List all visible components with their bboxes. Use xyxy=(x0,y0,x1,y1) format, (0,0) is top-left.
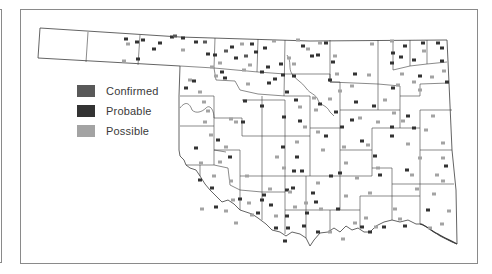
probable-case-marker xyxy=(286,227,290,230)
legend-label-confirmed: Confirmed xyxy=(106,85,159,97)
possible-case-marker xyxy=(272,40,276,43)
possible-case-marker xyxy=(287,57,291,60)
probable-case-marker xyxy=(269,204,273,207)
possible-case-marker xyxy=(424,129,428,132)
possible-case-marker xyxy=(312,97,316,100)
possible-case-marker xyxy=(398,218,402,221)
possible-case-marker xyxy=(370,43,374,46)
probable-case-marker xyxy=(316,231,320,234)
possible-case-marker xyxy=(376,121,380,124)
possible-case-marker xyxy=(316,182,320,185)
probable-case-marker xyxy=(314,201,318,204)
possible-case-marker xyxy=(295,141,299,144)
possible-case-marker xyxy=(218,161,222,164)
possible-case-marker xyxy=(275,156,279,159)
probable-case-marker xyxy=(243,100,247,103)
probable-case-marker xyxy=(281,146,285,149)
probable-case-marker xyxy=(194,41,198,44)
possible-case-marker xyxy=(335,73,339,76)
probable-case-marker xyxy=(318,103,322,106)
possible-case-marker xyxy=(396,84,400,87)
probable-case-marker xyxy=(234,57,238,60)
probable-case-marker xyxy=(213,54,217,57)
possible-case-marker xyxy=(206,110,210,113)
possible-case-marker xyxy=(318,42,322,45)
possible-case-marker xyxy=(364,217,368,220)
probable-case-marker xyxy=(340,126,344,129)
probable-case-marker xyxy=(292,75,296,78)
possible-case-marker xyxy=(358,117,362,120)
possible-case-marker xyxy=(319,208,323,211)
probable-case-marker xyxy=(295,156,299,159)
probable-case-marker xyxy=(391,52,395,55)
possible-case-marker xyxy=(316,131,320,134)
possible-case-marker xyxy=(292,63,296,66)
probable-case-marker xyxy=(216,139,220,142)
possible-case-marker xyxy=(441,157,445,160)
probable-case-marker xyxy=(135,41,139,44)
possible-case-marker xyxy=(268,188,272,191)
probable-case-marker xyxy=(382,226,386,229)
probable-case-marker xyxy=(283,240,287,243)
possible-case-marker xyxy=(410,174,414,177)
possible-case-marker xyxy=(400,73,404,76)
possible-case-marker xyxy=(274,215,278,218)
probable-case-marker xyxy=(274,227,278,230)
possible-case-marker xyxy=(181,49,185,52)
possible-case-marker xyxy=(422,50,426,53)
probable-case-marker xyxy=(260,71,264,74)
possible-case-marker xyxy=(288,191,292,194)
probable-case-marker xyxy=(445,81,449,84)
probable-case-marker xyxy=(390,135,394,138)
possible-case-marker xyxy=(202,101,206,104)
probable-case-marker xyxy=(301,45,305,48)
possible-case-marker xyxy=(355,177,359,180)
possible-case-marker xyxy=(376,167,380,170)
possible-case-marker xyxy=(296,39,300,42)
possible-case-marker xyxy=(392,112,396,115)
probable-case-marker xyxy=(181,37,185,40)
possible-case-marker xyxy=(218,62,222,65)
possible-case-marker xyxy=(366,144,370,147)
possible-case-marker xyxy=(293,206,297,209)
possible-case-marker xyxy=(126,43,130,46)
probable-case-marker xyxy=(391,87,395,90)
probable-case-marker xyxy=(250,43,254,46)
probable-case-marker xyxy=(198,179,202,182)
probable-case-marker xyxy=(328,79,332,82)
probable-case-marker xyxy=(194,147,198,150)
probable-case-marker xyxy=(390,126,394,129)
possible-case-marker xyxy=(428,227,432,230)
possible-case-marker xyxy=(229,180,233,183)
probable-case-marker xyxy=(206,53,210,56)
possible-case-marker xyxy=(200,208,204,211)
probable-case-marker xyxy=(331,61,335,64)
probable-case-marker xyxy=(324,135,328,138)
possible-case-marker xyxy=(188,79,192,82)
probable-case-marker xyxy=(440,60,444,63)
probable-case-marker xyxy=(329,175,333,178)
legend-item-possible: Possible xyxy=(77,121,159,141)
probable-case-marker xyxy=(390,62,394,65)
possible-case-marker xyxy=(383,99,387,102)
probable-case-marker xyxy=(360,140,364,143)
probable-case-marker xyxy=(305,212,309,215)
confirmed-swatch xyxy=(77,85,95,97)
probable-case-marker xyxy=(300,170,304,173)
probable-case-marker xyxy=(291,187,295,190)
possible-case-marker xyxy=(240,43,244,46)
possible-case-marker xyxy=(440,223,444,226)
probable-case-marker xyxy=(263,47,267,50)
possible-case-marker xyxy=(231,199,235,202)
legend-label-possible: Possible xyxy=(106,125,149,137)
possible-case-marker xyxy=(374,226,378,229)
probable-case-marker xyxy=(141,39,145,42)
probable-case-marker xyxy=(256,212,260,215)
probable-case-marker xyxy=(354,101,358,104)
confirmed-case-marker xyxy=(173,35,177,38)
probable-case-marker xyxy=(228,156,232,159)
legend-label-probable: Probable xyxy=(106,105,152,117)
oklahoma-county-map xyxy=(0,0,492,274)
possible-case-marker xyxy=(350,85,354,88)
possible-case-marker xyxy=(242,69,246,72)
